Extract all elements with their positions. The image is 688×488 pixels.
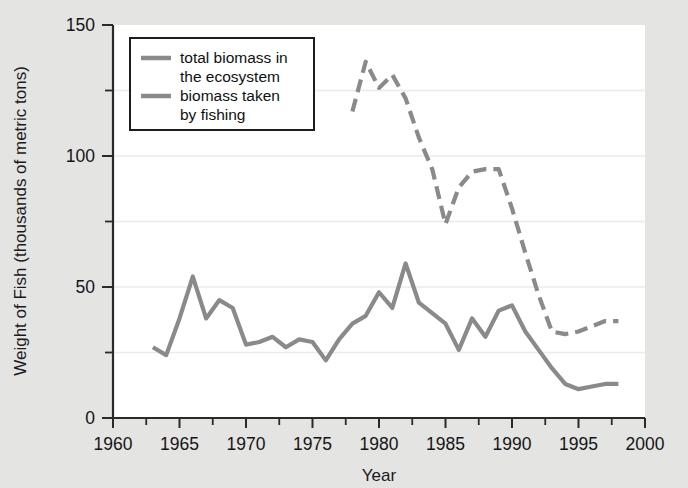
y-tick-label-50: 50 xyxy=(76,277,96,297)
legend-label-fishing-biomass-line2: by fishing xyxy=(180,106,245,123)
x-tick-label-1970: 1970 xyxy=(227,434,266,454)
x-tick-label-2000: 2000 xyxy=(626,434,665,454)
x-tick-label-1965: 1965 xyxy=(160,434,199,454)
y-tick-label-150: 150 xyxy=(66,15,95,35)
x-tick-label-1960: 1960 xyxy=(94,434,133,454)
x-axis-title: Year xyxy=(362,466,397,485)
chart-legend: total biomass in the ecosystem biomass t… xyxy=(130,38,314,130)
x-tick-label-1995: 1995 xyxy=(559,434,598,454)
legend-label-total-biomass-line1: total biomass in xyxy=(180,49,288,66)
chart-container: 1960196519701975198019851990199520000501… xyxy=(0,0,688,488)
y-tick-label-100: 100 xyxy=(66,146,95,166)
biomass-line-chart: 1960196519701975198019851990199520000501… xyxy=(0,0,688,488)
x-tick-label-1975: 1975 xyxy=(293,434,332,454)
legend-label-total-biomass-line2: the ecosystem xyxy=(180,68,280,85)
legend-label-fishing-biomass-line1: biomass taken xyxy=(180,87,280,104)
y-axis-title: Weight of Fish (thousands of metric tons… xyxy=(11,66,30,376)
x-tick-label-1985: 1985 xyxy=(426,434,465,454)
x-tick-label-1980: 1980 xyxy=(360,434,399,454)
x-tick-label-1990: 1990 xyxy=(493,434,532,454)
y-tick-label-0: 0 xyxy=(85,408,95,428)
